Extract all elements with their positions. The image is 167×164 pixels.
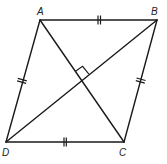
right-angle-marker bbox=[76, 66, 89, 74]
vertex-label-c: C bbox=[119, 147, 127, 158]
vertex-label-a: A bbox=[36, 6, 44, 17]
vertex-label-b: B bbox=[151, 6, 158, 17]
rhombus-diagram: A B C D bbox=[0, 0, 167, 164]
vertex-label-d: D bbox=[2, 147, 9, 158]
tick-marks-da bbox=[17, 78, 27, 83]
side-da bbox=[6, 20, 40, 142]
side-bc bbox=[124, 20, 157, 142]
diagonal-bd bbox=[6, 20, 157, 142]
